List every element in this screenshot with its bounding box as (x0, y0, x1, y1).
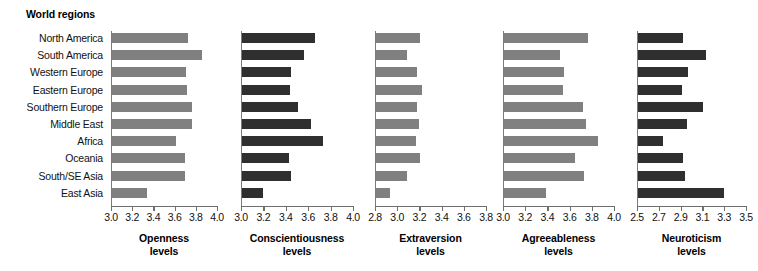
bar (112, 85, 187, 95)
panel-neuroticism: 2.52.72.93.13.33.5Neuroticismlevels (637, 0, 758, 271)
bar (112, 50, 202, 60)
bar (242, 119, 311, 129)
x-axis-tick-label: 3.5 (739, 211, 753, 223)
x-axis-tick-label: 3.2 (125, 211, 139, 223)
x-axis-tick-label: 2.7 (652, 211, 666, 223)
bar (242, 50, 304, 60)
x-axis-line (111, 206, 217, 207)
bar (504, 33, 588, 43)
axis-title-agreeableness: Agreeablenesslevels (522, 232, 595, 258)
bar (376, 67, 417, 77)
x-axis-tick-label: 4.0 (210, 211, 224, 223)
bar (638, 50, 706, 60)
bar (504, 85, 563, 95)
bar (242, 33, 315, 43)
axis-title-line1: Conscientiousness (250, 232, 345, 244)
bar (242, 102, 298, 112)
x-axis-tick-label: 3.0 (496, 211, 510, 223)
bar (242, 85, 290, 95)
bar (242, 67, 291, 77)
bar (638, 171, 685, 181)
x-axis-line (241, 206, 353, 207)
bar (376, 136, 416, 146)
x-axis-tick-label: 3.8 (189, 211, 203, 223)
panel-conscientiousness: 3.03.23.43.63.84.0Conscientiousnesslevel… (241, 0, 393, 271)
bar (112, 102, 192, 112)
x-axis-line (503, 206, 614, 207)
world-regions-header: World regions (0, 8, 105, 20)
axis-title-conscientiousness: Conscientiousnesslevels (250, 232, 345, 258)
x-axis-tick-label: 3.2 (518, 211, 532, 223)
region-label: Middle East (0, 119, 103, 130)
x-axis-tick-label: 3.2 (413, 211, 427, 223)
bar (112, 188, 147, 198)
x-axis-tick-label: 3.8 (479, 211, 493, 223)
region-label: South America (0, 50, 103, 61)
bar (376, 50, 407, 60)
x-axis-tick-label: 3.1 (696, 211, 710, 223)
bar (112, 119, 192, 129)
axis-title-extraversion: Extraversionlevels (399, 232, 461, 258)
x-axis-tick-label: 3.0 (104, 211, 118, 223)
bar (504, 119, 586, 129)
x-axis-tick-label: 2.5 (630, 211, 644, 223)
region-label: North America (0, 33, 103, 44)
bar (112, 136, 176, 146)
bar (504, 171, 584, 181)
bar (638, 67, 688, 77)
bar (376, 171, 407, 181)
x-axis-tick-label: 2.8 (368, 211, 382, 223)
x-axis-tick-label: 3.8 (585, 211, 599, 223)
plot-area-extraversion (375, 31, 486, 206)
bar (504, 153, 575, 163)
region-label: Western Europe (0, 67, 103, 78)
bar (112, 67, 186, 77)
bar (638, 188, 724, 198)
x-axis-line (637, 206, 746, 207)
x-axis-tick-label: 2.9 (674, 211, 688, 223)
x-axis-tick-label: 3.4 (279, 211, 293, 223)
x-axis-tick-label: 4.0 (346, 211, 360, 223)
bar (638, 136, 663, 146)
plot-area-openness (111, 31, 217, 206)
bar (376, 153, 420, 163)
bar (112, 153, 185, 163)
bar (638, 102, 703, 112)
axis-title-line2: levels (662, 245, 722, 258)
bar (504, 67, 564, 77)
x-axis-tick-label: 3.0 (390, 211, 404, 223)
bar (242, 171, 291, 181)
axis-title-line2: levels (522, 245, 595, 258)
x-axis-tick-label: 3.2 (257, 211, 271, 223)
bar (638, 33, 683, 43)
x-axis-tick-label: 3.4 (435, 211, 449, 223)
region-label: Oceania (0, 153, 103, 164)
bar (376, 188, 390, 198)
bar (638, 85, 682, 95)
axis-title-neuroticism: Neuroticismlevels (662, 232, 722, 258)
x-axis-tick-label: 3.0 (234, 211, 248, 223)
x-axis-tick-label: 3.8 (324, 211, 338, 223)
region-label: South/SE Asia (0, 171, 103, 182)
plot-area-neuroticism (637, 31, 746, 206)
x-axis-tick-label: 3.4 (541, 211, 555, 223)
axis-title-openness: Opennesslevels (139, 232, 189, 258)
bar (376, 33, 420, 43)
axis-title-line1: Agreeableness (522, 232, 595, 244)
bar (504, 102, 583, 112)
bar (242, 153, 289, 163)
bar (638, 119, 687, 129)
bar (112, 33, 188, 43)
axis-title-line2: levels (139, 245, 189, 258)
plot-area-conscientiousness (241, 31, 353, 206)
axis-title-line1: Neuroticism (662, 232, 722, 244)
region-label: Africa (0, 136, 103, 147)
bar (376, 102, 417, 112)
x-axis-tick-label: 4.0 (607, 211, 621, 223)
x-axis-tick-label: 3.6 (563, 211, 577, 223)
bar (376, 119, 419, 129)
bar (638, 153, 683, 163)
x-axis-tick-label: 3.6 (457, 211, 471, 223)
axis-title-line1: Openness (139, 232, 189, 244)
